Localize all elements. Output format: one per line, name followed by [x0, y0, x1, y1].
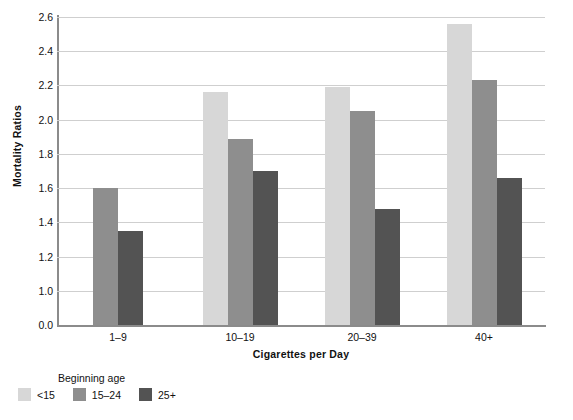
- bar: [325, 87, 350, 325]
- bar: [118, 231, 143, 325]
- x-axis-tick: 20–39: [317, 331, 407, 343]
- y-axis-tick: 1.8: [19, 148, 53, 160]
- bar: [253, 171, 278, 325]
- legend-item[interactable]: 15–24: [73, 388, 121, 401]
- legend-swatch-icon: [18, 388, 31, 401]
- bar-series-container: [57, 17, 545, 325]
- plot-area: [57, 17, 545, 325]
- legend-label: <15: [37, 389, 55, 401]
- legend-item[interactable]: 25+: [139, 388, 176, 401]
- bar: [350, 111, 375, 325]
- bar: [497, 178, 522, 325]
- y-axis-tick: 2.0: [19, 114, 53, 126]
- bar: [375, 209, 400, 325]
- x-axis-tick: 1–9: [73, 331, 163, 343]
- legend-label: 25+: [158, 389, 176, 401]
- legend-item[interactable]: <15: [18, 388, 55, 401]
- x-axis-tick: 40+: [439, 331, 529, 343]
- y-axis-tick: 2.2: [19, 79, 53, 91]
- bar-group: [423, 17, 545, 325]
- y-axis-tick: 2.4: [19, 45, 53, 57]
- bar: [93, 188, 118, 325]
- legend-swatch-icon: [139, 388, 152, 401]
- bar: [203, 92, 228, 325]
- y-axis-tick: 1.0: [19, 285, 53, 297]
- legend-title: Beginning age: [58, 372, 258, 384]
- bar-group: [301, 17, 423, 325]
- bar: [228, 139, 253, 326]
- y-axis-tick: 0.0: [19, 319, 53, 331]
- y-axis-tick: 1.6: [19, 182, 53, 194]
- x-axis-tick: 10–19: [195, 331, 285, 343]
- y-axis-tick: 1.2: [19, 251, 53, 263]
- bar-group: [57, 17, 179, 325]
- y-axis-tick: 1.4: [19, 216, 53, 228]
- y-axis-tick: 2.6: [19, 11, 53, 23]
- legend-items: <1515–2425+: [18, 388, 258, 401]
- bar-chart: Mortality Ratios 0.01.01.21.41.61.82.02.…: [0, 0, 573, 420]
- bar-group: [179, 17, 301, 325]
- legend-swatch-icon: [73, 388, 86, 401]
- y-axis-tick-labels: 0.01.01.21.41.61.82.02.22.42.6: [15, 17, 53, 325]
- x-axis-title: Cigarettes per Day: [57, 348, 545, 360]
- legend: Beginning age <1515–2425+: [18, 372, 258, 401]
- legend-label: 15–24: [92, 389, 121, 401]
- bar: [447, 24, 472, 325]
- x-axis-line: [57, 325, 546, 327]
- bar: [472, 80, 497, 325]
